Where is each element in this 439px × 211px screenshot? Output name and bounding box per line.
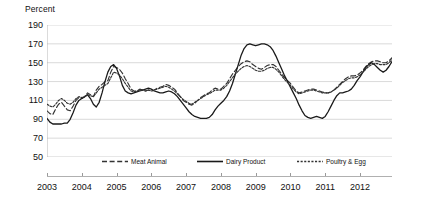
x-axis-tick-mark [47,173,48,176]
x-axis-tick-label: 2011 [316,182,335,192]
y-axis-tick-label: 70 [33,133,43,143]
legend-label: Dairy Product [226,158,265,165]
x-axis-tick-mark [256,173,257,176]
legend-swatch-icon [297,158,323,165]
x-axis-tick-label: 2004 [72,182,92,192]
x-axis-tick-mark [221,173,222,176]
legend-item: Meat Animal [102,158,167,165]
y-axis-tick-label: 150 [28,58,43,68]
plot-svg [47,25,392,157]
x-axis-tick-label: 2006 [141,182,161,192]
x-axis-tick-label: 2007 [176,182,196,192]
series-line-poultry-egg [47,45,392,107]
x-axis-tick-label: 2012 [350,182,370,192]
y-axis-tick-label: 110 [29,95,43,105]
x-axis-tick-label: 2005 [107,182,127,192]
y-axis-tick-label: 170 [28,39,43,49]
chart-legend: Meat AnimalDairy ProductPoultry & Egg [47,158,392,172]
plot-area [47,25,392,157]
legend-label: Poultry & Egg [326,158,366,165]
y-axis-tick-label: 90 [33,114,43,124]
x-axis-tick-mark [360,173,361,176]
x-axis-tick-mark [325,173,326,176]
line-chart: Percent 190170150130110907050 Meat Anima… [0,0,439,211]
x-axis-tick-mark [290,173,291,176]
x-axis-tick-label: 2008 [211,182,231,192]
x-axis-tick-label: 2009 [246,182,266,192]
y-axis-tick-label: 130 [28,77,43,87]
x-axis-tick-mark [186,173,187,176]
x-axis-tick-mark [82,173,83,176]
legend-label: Meat Animal [131,158,167,165]
legend-swatch-icon [197,158,223,165]
x-axis-tick-label: 2003 [37,182,57,192]
legend-item: Dairy Product [197,158,265,165]
y-axis-tick-labels: 190170150130110907050 [0,0,43,211]
legend-swatch-icon [102,158,128,165]
y-axis-tick-label: 190 [28,20,43,30]
x-axis-spine [47,176,392,177]
x-axis-tick-label: 2010 [280,182,300,192]
legend-item: Poultry & Egg [297,158,366,165]
y-axis-tick-label: 50 [33,152,43,162]
x-axis-tick-mark [117,173,118,176]
x-axis-tick-mark [151,173,152,176]
